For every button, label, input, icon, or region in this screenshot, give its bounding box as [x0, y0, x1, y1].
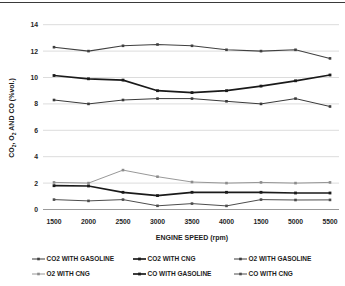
- legend-item-co2-with-cng[interactable]: CO2 WITH CNG: [133, 255, 196, 262]
- x-tick-label: 5000: [288, 218, 303, 225]
- x-axis-title: ENGINE SPEED (rpm): [156, 234, 228, 242]
- series-o2-with-gasoline: [53, 97, 332, 107]
- x-tick-label: 2500: [115, 218, 130, 225]
- legend-item-o2-with-gasoline[interactable]: O2 WITH GASOLINE: [234, 255, 312, 262]
- y-tick-label: 10: [30, 74, 38, 81]
- legend-item-co-with-cng[interactable]: CO WITH CNG: [234, 270, 293, 277]
- x-tick-label: 4000: [219, 218, 234, 225]
- legend-item-co2-with-gasoline[interactable]: CO2 WITH GASOLINE: [32, 255, 115, 262]
- x-tick-label: 3500: [184, 218, 199, 225]
- legend-label: CO2 WITH CNG: [148, 255, 196, 262]
- y-tick-label: 2: [34, 180, 38, 187]
- legend-marker-icon: [138, 273, 141, 276]
- y-axis-ticks: 0 2 4 6 8 10 12 14: [30, 21, 38, 213]
- x-tick-label: 1500: [253, 218, 268, 225]
- line-chart: 0 2 4 6 8 10 12 14 CO2, O2 AND CO (%vol.…: [0, 0, 345, 286]
- y-tick-label: 0: [34, 206, 38, 213]
- legend-label: O2 WITH GASOLINE: [249, 255, 313, 262]
- legend-label: O2 WITH CNG: [47, 270, 90, 277]
- legend-marker-icon: [37, 273, 40, 276]
- legend-item-co-with-gasoline[interactable]: CO WITH GASOLINE: [133, 270, 212, 277]
- y-tick-label: 14: [30, 21, 38, 28]
- x-axis-ticks: 1500 2000 2500 3000 3500 4000 1500 5000 …: [46, 218, 337, 225]
- y-axis-title: CO2, O2 AND CO (%vol.): [8, 78, 17, 158]
- legend-label: CO2 WITH GASOLINE: [47, 255, 115, 262]
- legend-marker-icon: [239, 273, 242, 276]
- svg-text:CO2, O2 AND CO (%vol.): CO2, O2 AND CO (%vol.): [8, 78, 17, 158]
- y-tick-label: 12: [30, 48, 38, 55]
- x-tick-label: 1500: [46, 218, 61, 225]
- legend-label: CO WITH CNG: [249, 270, 293, 277]
- y-tick-label: 4: [34, 153, 38, 160]
- series-co2-with-cng: [53, 74, 332, 94]
- x-tick-label: 5500: [322, 218, 337, 225]
- legend-marker-icon: [138, 258, 141, 261]
- legend-marker-icon: [239, 258, 242, 261]
- y-tick-label: 6: [34, 127, 38, 134]
- x-tick-label: 2000: [81, 218, 96, 225]
- series-o2-with-cng: [53, 169, 332, 185]
- series-co-with-gasoline: [53, 184, 332, 197]
- y-tick-label: 8: [34, 100, 38, 107]
- x-tick-label: 3000: [150, 218, 165, 225]
- chart-container: 0 2 4 6 8 10 12 14 CO2, O2 AND CO (%vol.…: [0, 0, 345, 286]
- legend-label: CO WITH GASOLINE: [148, 270, 213, 277]
- legend-marker-icon: [37, 258, 40, 261]
- y-axis-title-part1: CO: [8, 147, 15, 158]
- series-co-with-cng: [53, 198, 332, 207]
- legend-item-o2-with-cng[interactable]: O2 WITH CNG: [32, 270, 90, 277]
- chart-legend: CO2 WITH GASOLINE CO2 WITH CNG O2 WITH G…: [32, 255, 312, 277]
- y-axis-title-part3: AND CO (%vol.): [8, 78, 16, 132]
